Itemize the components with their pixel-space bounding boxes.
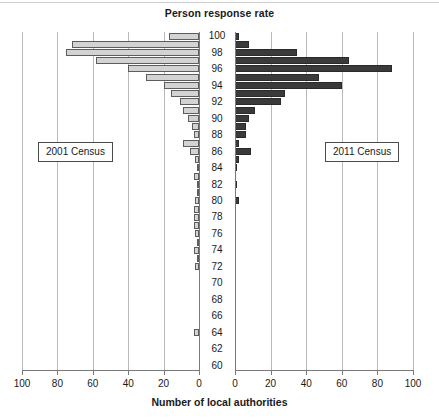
- y-tick-72: 72: [199, 262, 235, 272]
- bar-2001-100: [169, 33, 199, 40]
- left-plot-panel: [22, 32, 199, 370]
- x-tickmark-left-60: [93, 370, 94, 375]
- y-tick-86: 86: [199, 147, 235, 157]
- x-tick-left-80: 80: [40, 378, 74, 389]
- x-tick-right-60: 60: [325, 378, 359, 389]
- x-tickmark-left-20: [164, 370, 165, 375]
- gridline-right-100: [413, 32, 414, 370]
- x-tickmark-right-40: [306, 370, 307, 375]
- legend-2001-census: 2001 Census: [38, 142, 113, 162]
- x-axis-label: Number of local authorities: [0, 396, 439, 408]
- y-tick-96: 96: [199, 64, 235, 74]
- bar-2001-92: [180, 98, 199, 105]
- bar-2001-98: [66, 49, 199, 56]
- x-tick-right-20: 20: [254, 378, 288, 389]
- x-tickmark-left-100: [22, 370, 23, 375]
- y-tick-78: 78: [199, 212, 235, 222]
- bar-2001-89: [192, 123, 199, 130]
- gridline-right-60: [342, 32, 343, 370]
- x-tick-right-80: 80: [360, 378, 394, 389]
- bar-2001-91: [183, 107, 199, 114]
- bar-2011-90: [235, 115, 249, 122]
- page-rule: [0, 2, 439, 3]
- x-tick-left-0: 0: [182, 378, 216, 389]
- bar-2011-94: [235, 82, 342, 89]
- gridline-left-40: [128, 32, 129, 370]
- legend-2011-census: 2011 Census: [325, 142, 399, 162]
- y-tick-64: 64: [199, 328, 235, 338]
- x-tickmark-right-0: [235, 370, 236, 375]
- x-tickmark-right-20: [271, 370, 272, 375]
- bar-2011-99: [235, 41, 249, 48]
- y-tick-68: 68: [199, 295, 235, 305]
- y-tick-98: 98: [199, 48, 235, 58]
- y-tick-62: 62: [199, 344, 235, 354]
- bar-2001-93: [171, 90, 199, 97]
- bar-2001-95: [146, 74, 199, 81]
- x-tick-left-100: 100: [5, 378, 39, 389]
- zero-baseline-right: [235, 32, 236, 370]
- y-tick-76: 76: [199, 229, 235, 239]
- zero-baseline-left: [199, 32, 200, 370]
- y-tick-60: 60: [199, 361, 235, 371]
- y-tick-70: 70: [199, 278, 235, 288]
- bar-2011-98: [235, 49, 297, 56]
- x-tick-right-40: 40: [289, 378, 323, 389]
- x-tickmark-right-100: [413, 370, 414, 375]
- bar-2011-96: [235, 65, 392, 72]
- bar-2001-90: [188, 115, 199, 122]
- bar-2001-94: [164, 82, 199, 89]
- bar-2001-96: [128, 65, 199, 72]
- person-response-rate-chart: Person response rate 1009896949290888684…: [0, 0, 439, 419]
- y-tick-94: 94: [199, 81, 235, 91]
- x-tick-left-40: 40: [111, 378, 145, 389]
- bar-2011-95: [235, 74, 319, 81]
- y-tick-82: 82: [199, 180, 235, 190]
- y-tick-88: 88: [199, 130, 235, 140]
- x-tickmark-right-60: [342, 370, 343, 375]
- y-axis-tick-labels: 1009896949290888684828078767472706866646…: [199, 32, 235, 370]
- y-tick-80: 80: [199, 196, 235, 206]
- bar-2011-86: [235, 148, 251, 155]
- x-tickmark-right-80: [377, 370, 378, 375]
- bar-2001-87: [183, 140, 199, 147]
- x-axis-left: [22, 370, 199, 371]
- bar-2011-89: [235, 123, 246, 130]
- bar-2011-88: [235, 131, 246, 138]
- bar-2011-91: [235, 107, 255, 114]
- y-tick-92: 92: [199, 97, 235, 107]
- x-tick-right-0: 0: [218, 378, 252, 389]
- chart-title: Person response rate: [0, 7, 439, 19]
- gridline-right-80: [377, 32, 378, 370]
- y-tick-100: 100: [199, 31, 235, 41]
- x-axis-right: [235, 370, 413, 371]
- bar-2011-97: [235, 57, 349, 64]
- x-tick-right-100: 100: [396, 378, 430, 389]
- x-tick-left-60: 60: [76, 378, 110, 389]
- y-tick-84: 84: [199, 163, 235, 173]
- gridline-left-100: [22, 32, 23, 370]
- bar-2001-86: [190, 148, 199, 155]
- right-plot-panel: [235, 32, 413, 370]
- bar-2011-92: [235, 98, 281, 105]
- x-tickmark-left-40: [128, 370, 129, 375]
- y-tick-90: 90: [199, 114, 235, 124]
- bar-2001-99: [72, 41, 199, 48]
- bar-2001-97: [96, 57, 199, 64]
- x-tick-left-20: 20: [147, 378, 181, 389]
- gridline-left-80: [57, 32, 58, 370]
- gridline-left-60: [93, 32, 94, 370]
- bar-2011-93: [235, 90, 285, 97]
- x-tickmark-left-0: [199, 370, 200, 375]
- x-tickmark-left-80: [57, 370, 58, 375]
- y-tick-66: 66: [199, 311, 235, 321]
- y-tick-74: 74: [199, 245, 235, 255]
